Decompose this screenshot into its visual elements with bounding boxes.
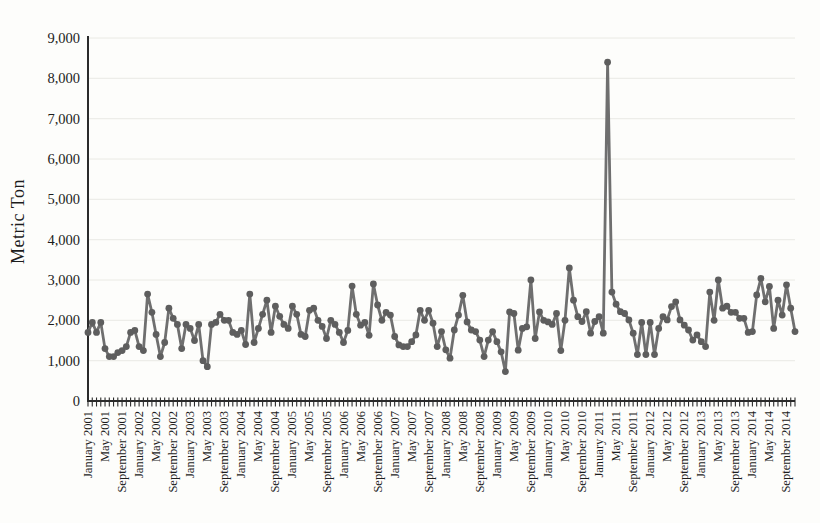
- data-point: [238, 327, 245, 334]
- x-tick-label: May 2012: [660, 411, 674, 462]
- data-point: [170, 315, 177, 322]
- x-tick-label: September 2005: [320, 411, 334, 493]
- data-point: [425, 307, 432, 314]
- data-point: [553, 310, 560, 317]
- data-point: [455, 312, 462, 319]
- x-tick-label: May 2005: [302, 411, 316, 462]
- data-point: [583, 308, 590, 315]
- data-point: [85, 329, 92, 336]
- x-tick-label: January 2006: [337, 411, 351, 478]
- x-tick-label: September 2003: [217, 411, 231, 493]
- data-point: [613, 301, 620, 308]
- x-tick-label: September 2007: [422, 411, 436, 493]
- data-point: [140, 347, 147, 354]
- data-point: [596, 313, 603, 320]
- y-tick-label: 2,000: [47, 312, 80, 328]
- data-point: [97, 319, 104, 326]
- x-tick-label: May 2013: [711, 411, 725, 462]
- data-point: [421, 317, 428, 324]
- x-tick-label: September 2013: [728, 411, 742, 493]
- data-point: [336, 329, 343, 336]
- x-tick-label: January 2011: [592, 411, 606, 478]
- y-tick-label: 1,000: [47, 353, 80, 369]
- data-point: [174, 321, 181, 328]
- data-point: [349, 283, 356, 290]
- x-tick-label: September 2009: [524, 411, 538, 493]
- data-point: [102, 345, 109, 352]
- y-tick-label: 8,000: [47, 70, 80, 86]
- x-tick-label: September 2004: [268, 410, 282, 492]
- data-point: [332, 321, 339, 328]
- data-point: [255, 325, 262, 332]
- data-point: [391, 333, 398, 340]
- data-point: [217, 311, 224, 318]
- data-point: [379, 317, 386, 324]
- x-tick-label: January 2003: [183, 411, 197, 478]
- data-point: [310, 305, 317, 312]
- data-point: [374, 302, 381, 309]
- data-point: [195, 321, 202, 328]
- x-tick-label: September 2008: [473, 411, 487, 493]
- data-point: [715, 277, 722, 284]
- data-point: [762, 298, 769, 305]
- data-point: [609, 289, 616, 296]
- data-point: [149, 309, 156, 316]
- data-point: [408, 338, 415, 345]
- x-tick-label: January 2005: [285, 411, 299, 478]
- data-point: [272, 303, 279, 310]
- data-point: [502, 368, 509, 375]
- y-tick-label: 4,000: [47, 232, 80, 248]
- data-point: [293, 311, 300, 318]
- x-tick-label: May 2006: [354, 411, 368, 462]
- data-point: [370, 281, 377, 288]
- x-tick-label: January 2009: [490, 411, 504, 478]
- data-point: [498, 348, 505, 355]
- data-point: [557, 347, 564, 354]
- x-tick-label: January 2004: [234, 410, 248, 478]
- data-point: [464, 319, 471, 326]
- x-tick-label: May 2014: [762, 410, 776, 462]
- data-point: [361, 319, 368, 326]
- data-point: [191, 337, 198, 344]
- data-point: [485, 337, 492, 344]
- data-point: [770, 325, 777, 332]
- data-point: [523, 323, 530, 330]
- data-point: [702, 343, 709, 350]
- data-point: [268, 329, 275, 336]
- x-tick-label: May 2011: [609, 411, 623, 462]
- data-point: [157, 353, 164, 360]
- data-point: [242, 341, 249, 348]
- metric-ton-line-chart: 01,0002,0003,0004,0005,0006,0007,0008,00…: [0, 0, 820, 523]
- data-point: [511, 310, 518, 317]
- data-point: [387, 312, 394, 319]
- data-point: [481, 353, 488, 360]
- y-tick-label: 7,000: [47, 111, 80, 127]
- x-tick-label: January 2002: [132, 411, 146, 478]
- data-point: [264, 297, 271, 304]
- x-tick-label: May 2002: [149, 411, 163, 462]
- x-tick-label: January 2007: [388, 411, 402, 478]
- y-tick-label: 5,000: [47, 191, 80, 207]
- data-point: [472, 328, 479, 335]
- data-point: [621, 310, 628, 317]
- x-tick-label: January 2012: [643, 411, 657, 478]
- data-point: [647, 319, 654, 326]
- data-point: [766, 283, 773, 290]
- data-point: [447, 355, 454, 362]
- data-point: [655, 325, 662, 332]
- x-tick-label: January 2010: [541, 411, 555, 478]
- x-tick-label: September 2010: [575, 411, 589, 493]
- data-point: [123, 343, 130, 350]
- data-point: [246, 291, 253, 298]
- data-point: [706, 289, 713, 296]
- data-point: [779, 312, 786, 319]
- data-point: [459, 292, 466, 299]
- data-point: [732, 309, 739, 316]
- data-point: [694, 332, 701, 339]
- data-point: [587, 330, 594, 337]
- data-point: [643, 351, 650, 358]
- data-point: [131, 327, 138, 334]
- data-point: [775, 297, 782, 304]
- data-point: [630, 330, 637, 337]
- data-point: [259, 311, 266, 318]
